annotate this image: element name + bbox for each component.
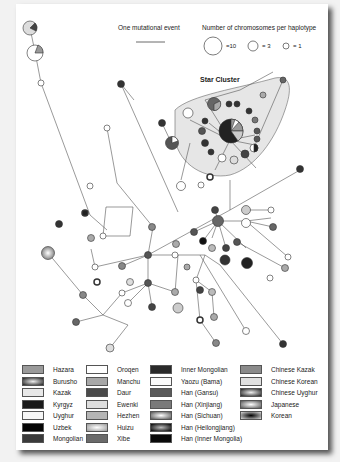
legend-item: Han (Inner Mongolia) (150, 433, 242, 444)
legend-item: Oroqen (86, 364, 140, 375)
legend-item: Uyghur (22, 410, 83, 421)
legend-column-2: Oroqen Manchu Daur Ewenki Hezhen Huizu X… (86, 364, 140, 445)
legend-item: Manchu (86, 376, 140, 387)
legend-item: Han (Gansu) (150, 387, 242, 398)
legend-item: Chinese Uyghur (240, 387, 318, 398)
legend-item: Uzbek (22, 422, 83, 433)
legend-item: Inner Mongolian (150, 364, 242, 375)
legend-item: Kazak (22, 387, 83, 398)
legend-item: Huizu (86, 422, 140, 433)
legend-item: Xibe (86, 433, 140, 444)
legend-item: Han (Heilongjiang) (150, 422, 242, 433)
network-edges (30, 23, 300, 348)
legend-item: Chinese Kazak (240, 364, 318, 375)
legend-item: Han (Xinjiang) (150, 399, 242, 410)
size-key-10: =10 (226, 43, 237, 49)
legend-column-3: Inner Mongolian Yaozu (Bama) Han (Gansu)… (150, 364, 242, 445)
legend-item: Daur (86, 387, 140, 398)
network-nodes (23, 21, 304, 352)
legend-item: Han (Sichuan) (150, 410, 242, 421)
legend-item: Kyrgyz (22, 399, 83, 410)
legend-item: Burusho (22, 376, 83, 387)
star-cluster-label: Star Cluster (200, 76, 240, 83)
legend-item: Hezhen (86, 410, 140, 421)
legend-item: Hazara (22, 364, 83, 375)
legend-item: Ewenki (86, 399, 140, 410)
size-key-title: Number of chromosomes per haplotype (202, 24, 317, 32)
size-key-3: = 3 (262, 43, 271, 49)
legend-item: Korean (240, 410, 318, 421)
legend-item: Chinese Korean (240, 376, 318, 387)
legend-column-1: Hazara Burusho Kazak Kyrgyz Uyghur Uzbek… (22, 364, 83, 445)
legend-item: Mongolian (22, 433, 83, 444)
legend-column-4: Chinese Kazak Chinese Korean Chinese Uyg… (240, 364, 318, 422)
size-key-1: = 1 (293, 43, 302, 49)
population-legend: Hazara Burusho Kazak Kyrgyz Uyghur Uzbek… (22, 364, 322, 444)
legend-item: Yaozu (Bama) (150, 376, 242, 387)
legend-item: Japanese (240, 399, 318, 410)
scale-label: One mutational event (118, 24, 180, 31)
